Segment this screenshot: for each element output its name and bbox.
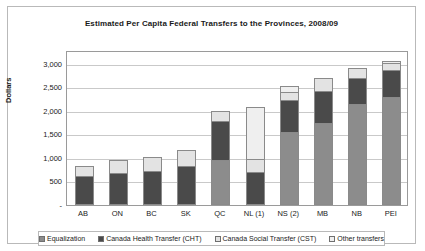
- bar-segment: [348, 104, 367, 205]
- chart-title: Estimated Per Capita Federal Transfers t…: [8, 19, 415, 28]
- legend-item[interactable]: Canada Social Transfer (CST): [215, 235, 317, 242]
- y-axis-tick-label: 2,000: [8, 106, 62, 115]
- legend-swatch: [329, 236, 335, 242]
- legend-item[interactable]: Canada Health Transfer (CHT): [98, 235, 201, 242]
- bar-segment: [246, 172, 265, 205]
- bar-column: [314, 78, 333, 205]
- chart-legend: EqualizationCanada Health Transfer (CHT)…: [38, 231, 385, 246]
- legend-item[interactable]: Equalization: [39, 235, 85, 242]
- legend-label: Canada Health Transfer (CHT): [106, 235, 201, 242]
- bar-segment: [280, 100, 299, 133]
- bar-column: [280, 86, 299, 205]
- legend-item[interactable]: Other transfers: [329, 235, 384, 242]
- bar-column: [211, 111, 230, 205]
- bar-segment: [143, 171, 162, 205]
- bar-segment: [143, 157, 162, 172]
- y-axis-tick-label: 500: [8, 177, 62, 186]
- y-axis-tick-label: 1,500: [8, 130, 62, 139]
- y-axis-tick-label: -: [8, 201, 62, 210]
- bar-column: [177, 150, 196, 205]
- bar-segment: [280, 132, 299, 205]
- legend-swatch: [215, 236, 221, 242]
- bar-series-layer: [67, 52, 407, 205]
- bar-column: [109, 160, 128, 205]
- bar-segment: [75, 176, 94, 205]
- y-axis-tick-label: 2,500: [8, 83, 62, 92]
- bar-segment: [109, 173, 128, 205]
- bar-column: [348, 68, 367, 205]
- bar-segment: [177, 166, 196, 205]
- bar-segment: [314, 91, 333, 124]
- legend-label: Canada Social Transfer (CST): [223, 235, 317, 242]
- chart-frame: Estimated Per Capita Federal Transfers t…: [7, 6, 416, 244]
- legend-label: Other transfers: [337, 235, 384, 242]
- legend-swatch: [98, 236, 104, 242]
- bar-segment: [109, 160, 128, 174]
- bar-column: [246, 107, 265, 205]
- bar-segment: [348, 78, 367, 104]
- y-axis-tick-label: 3,000: [8, 59, 62, 68]
- legend-swatch: [39, 236, 45, 242]
- y-axis-tick-label: 1,000: [8, 153, 62, 162]
- legend-label: Equalization: [47, 235, 85, 242]
- bar-segment: [211, 160, 230, 205]
- bar-segment: [246, 107, 265, 160]
- bar-segment: [314, 78, 333, 92]
- bar-segment: [382, 70, 401, 98]
- bar-segment: [314, 123, 333, 205]
- bar-column: [382, 61, 401, 205]
- bar-segment: [246, 159, 265, 173]
- bar-segment: [177, 150, 196, 166]
- bar-segment: [211, 121, 230, 161]
- x-axis-tick-label: PEI: [368, 209, 414, 218]
- bar-column: [75, 166, 94, 205]
- bar-column: [143, 157, 162, 205]
- bar-segment: [382, 97, 401, 205]
